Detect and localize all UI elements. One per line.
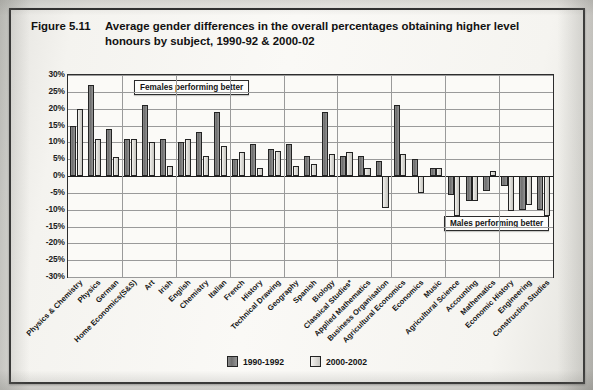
figure-number: Figure 5.11	[31, 19, 105, 34]
bar	[77, 109, 83, 176]
gridline-x-3	[122, 75, 123, 277]
gridline-y--5	[68, 193, 553, 194]
bar	[106, 129, 112, 176]
gridline-x-18	[391, 75, 392, 277]
bar	[376, 161, 382, 176]
bar	[232, 159, 238, 176]
y-tick-label: -5%	[17, 187, 65, 197]
bar	[544, 176, 550, 216]
bar	[239, 152, 245, 176]
bar	[131, 139, 137, 176]
bar	[214, 112, 220, 176]
gridline-y--10	[68, 210, 553, 211]
gridline-x-6	[176, 75, 177, 277]
bar	[340, 156, 346, 176]
gridline-y-15	[68, 126, 553, 127]
bar	[268, 149, 274, 176]
bar	[178, 142, 184, 176]
legend-swatch-icon-series2	[310, 356, 321, 367]
y-tick-label: -20%	[17, 237, 65, 247]
bar	[160, 139, 166, 176]
bar	[526, 176, 532, 205]
bar	[382, 176, 388, 208]
gridline-y-5	[68, 159, 553, 160]
y-tick-label: -25%	[17, 254, 65, 264]
legend-item-2000-2002: 2000-2002	[310, 356, 367, 367]
gridline-y--20	[68, 243, 553, 244]
figure-frame: Figure 5.11Average gender differences in…	[9, 8, 585, 384]
bar	[430, 168, 436, 176]
legend-label-series1: 1990-1992	[243, 357, 284, 367]
bar	[286, 144, 292, 176]
bar	[454, 176, 460, 216]
bar	[508, 176, 514, 211]
bar	[311, 164, 317, 176]
gridline-x-24	[499, 75, 500, 277]
x-tick-label: Physics & Chemistry	[25, 278, 85, 338]
y-tick-label: 0%	[17, 170, 65, 180]
y-tick-label: 15%	[17, 120, 65, 130]
gridline-y--25	[68, 260, 553, 261]
gridline-y-0	[68, 176, 553, 177]
bar	[364, 168, 370, 176]
scanned-page: Figure 5.11Average gender differences in…	[0, 0, 593, 390]
y-axis: 30%25%20%15%10%5%0%-5%-10%-15%-20%-25%-3…	[13, 74, 65, 276]
gridline-y-20	[68, 109, 553, 110]
legend-swatch-icon-series1	[227, 356, 238, 367]
gridline-y-30	[68, 75, 553, 76]
bar	[329, 154, 335, 176]
bar	[196, 132, 202, 176]
gridline-x-12	[284, 75, 285, 277]
bar	[322, 112, 328, 176]
bar	[221, 146, 227, 176]
bar	[250, 144, 256, 176]
y-tick-label: -10%	[17, 204, 65, 214]
gridline-y--15	[68, 227, 553, 228]
bar	[519, 176, 525, 210]
y-tick-label: 20%	[17, 103, 65, 113]
bar	[203, 156, 209, 176]
bar	[358, 156, 364, 176]
bar	[346, 152, 352, 176]
x-tick-label: Art	[142, 278, 156, 292]
bar	[257, 168, 263, 176]
gridline-y-10	[68, 142, 553, 143]
bar	[490, 171, 496, 176]
chart-legend: 1990-1992 2000-2002	[11, 356, 583, 367]
bar	[472, 176, 478, 201]
annotation-males-performing-better: Males performing better	[444, 216, 549, 231]
bar	[436, 168, 442, 176]
bar	[501, 176, 507, 186]
page-title: Average gender differences in the overal…	[105, 19, 555, 49]
y-tick-label: 30%	[17, 69, 65, 79]
y-tick-label: -15%	[17, 221, 65, 231]
bar	[95, 139, 101, 176]
y-tick-label: -30%	[17, 271, 65, 281]
bar	[448, 176, 454, 195]
bar	[88, 85, 94, 176]
bar	[293, 166, 299, 176]
gridline-x-9	[230, 75, 231, 277]
bar	[113, 157, 119, 176]
legend-label-series2: 2000-2002	[326, 357, 367, 367]
bar	[142, 105, 148, 176]
gridline-x-15	[337, 75, 338, 277]
figure-title-block: Figure 5.11Average gender differences in…	[31, 19, 571, 49]
bar	[167, 166, 173, 176]
bar	[394, 105, 400, 176]
y-tick-label: 25%	[17, 86, 65, 96]
bar	[412, 159, 418, 176]
y-tick-label: 5%	[17, 153, 65, 163]
gridline-y-25	[68, 92, 553, 93]
bar	[304, 156, 310, 176]
bar	[124, 139, 130, 176]
bar	[275, 151, 281, 176]
y-tick-label: 10%	[17, 136, 65, 146]
chart-plot-area: Females performing better Males performi…	[67, 74, 554, 278]
bar	[70, 126, 76, 177]
gridline-x-21	[445, 75, 446, 277]
bar	[149, 142, 155, 176]
legend-item-1990-1992: 1990-1992	[227, 356, 284, 367]
bar	[185, 139, 191, 176]
bar	[400, 154, 406, 176]
